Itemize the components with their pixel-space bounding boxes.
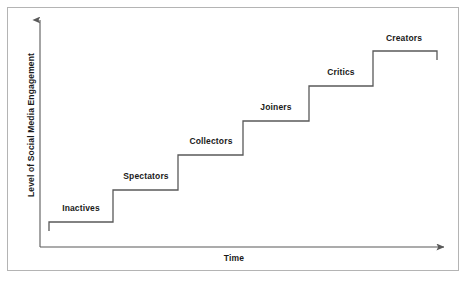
staircase-line bbox=[49, 51, 437, 231]
step-label-creators: Creators bbox=[386, 33, 422, 43]
step-label-joiners: Joiners bbox=[260, 102, 291, 112]
figure-root: Level of Social Media Engagement Time In… bbox=[0, 0, 468, 281]
step-label-critics: Critics bbox=[327, 67, 355, 77]
step-label-inactives: Inactives bbox=[62, 203, 100, 213]
x-axis-label: Time bbox=[0, 253, 468, 263]
step-label-spectators: Spectators bbox=[123, 171, 168, 181]
step-label-collectors: Collectors bbox=[189, 136, 232, 146]
y-axis-label: Level of Social Media Engagement bbox=[26, 25, 36, 225]
